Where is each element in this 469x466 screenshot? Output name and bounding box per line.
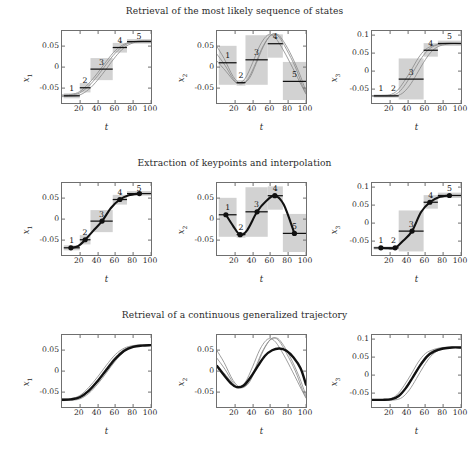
x-tick-label: 80 [437, 104, 447, 113]
state-label-5: 5 [447, 184, 452, 193]
x-axis-label: t [371, 426, 462, 436]
y-tick-mark [458, 187, 461, 188]
y-tick-mark [372, 35, 375, 36]
keypoint-marker [393, 245, 398, 250]
x-axis-label: t [216, 426, 307, 436]
x-tick-mark [270, 31, 271, 34]
y-tick-mark [148, 371, 151, 372]
x-tick-mark [97, 335, 98, 338]
plot-area: 12345 [216, 30, 307, 104]
row-most-likely-sequence: Retrieval of the most likely sequence of… [0, 0, 469, 152]
keypoint-marker [378, 245, 383, 250]
x-tick-mark [234, 252, 235, 255]
x-tick-label: 20 [384, 104, 394, 113]
demo-curve [62, 345, 151, 399]
y-tick-mark [217, 197, 220, 198]
x-tick-label: 20 [74, 256, 84, 265]
x-tick-mark [461, 252, 462, 255]
x-tick-mark [151, 183, 152, 186]
keypoint-marker [427, 200, 432, 205]
panel-row2-x3: x3 12345 t 0.10.050-0.0520406080100 [334, 178, 464, 282]
y-tick-label: 0.05 [197, 192, 214, 201]
x-tick-label: 60 [110, 408, 120, 417]
x-tick-label: 60 [265, 104, 275, 113]
y-tick-label: 0 [209, 366, 214, 375]
y-tick-mark [62, 45, 65, 46]
x-tick-mark [133, 404, 134, 407]
x-axis-label: t [371, 122, 462, 132]
x-tick-mark [407, 183, 408, 186]
x-tick-mark [97, 100, 98, 103]
x-tick-label: 100 [453, 104, 468, 113]
y-tick-mark [217, 371, 220, 372]
plot-svg [62, 183, 151, 255]
y-tick-label: 0 [54, 366, 59, 375]
y-tick-mark [303, 349, 306, 350]
y-axis-label: x1 [21, 226, 33, 235]
x-tick-mark [443, 31, 444, 34]
x-tick-mark [115, 100, 116, 103]
x-tick-mark [79, 335, 80, 338]
x-tick-mark [443, 100, 444, 103]
x-tick-mark [252, 100, 253, 103]
x-tick-mark [407, 31, 408, 34]
x-tick-mark [97, 252, 98, 255]
state-label-3: 3 [409, 67, 414, 76]
x-tick-label: 100 [298, 408, 313, 417]
x-tick-mark [288, 31, 289, 34]
x-axis-label: t [216, 274, 307, 284]
state-label-3: 3 [254, 200, 259, 209]
plot-area: 12345 [216, 182, 307, 256]
x-tick-label: 80 [437, 256, 447, 265]
state-label-3: 3 [254, 48, 259, 57]
x-axis-label: t [61, 122, 152, 132]
panel-row1-x1: x1 12345 t 0.050-0.0520406080100 [26, 26, 154, 130]
y-tick-mark [458, 392, 461, 393]
x-tick-label: 80 [282, 408, 292, 417]
state-label-4: 4 [273, 184, 278, 193]
y-axis-label: x2 [176, 226, 188, 235]
x-tick-mark [407, 404, 408, 407]
x-tick-label: 40 [402, 104, 412, 113]
y-tick-label: 0.05 [42, 40, 59, 49]
x-tick-label: 20 [384, 408, 394, 417]
keypoint-marker [83, 237, 88, 242]
x-tick-mark [425, 100, 426, 103]
x-tick-mark [270, 252, 271, 255]
y-tick-mark [458, 240, 461, 241]
y-tick-mark [217, 45, 220, 46]
x-axis-label: t [61, 426, 152, 436]
x-tick-mark [461, 183, 462, 186]
plot-svg [217, 183, 306, 255]
y-tick-mark [148, 45, 151, 46]
panel-row3-x2: x2 t 0.050-0.0520406080100 [181, 330, 309, 434]
y-tick-mark [148, 240, 151, 241]
state-label-4: 4 [273, 32, 278, 41]
x-tick-mark [79, 404, 80, 407]
y-tick-mark [62, 392, 65, 393]
x-tick-mark [270, 183, 271, 186]
state-label-1: 1 [225, 51, 230, 60]
x-tick-mark [306, 252, 307, 255]
y-tick-mark [148, 67, 151, 68]
x-tick-mark [234, 335, 235, 338]
plot-area [371, 334, 462, 408]
y-tick-mark [458, 70, 461, 71]
panel-row2-x2: x2 12345 t 0.050-0.0520406080100 [181, 178, 309, 282]
y-tick-mark [458, 205, 461, 206]
y-axis-label: x2 [176, 74, 188, 83]
x-axis-label: t [216, 122, 307, 132]
x-tick-mark [306, 31, 307, 34]
figure-canvas: Retrieval of the most likely sequence of… [0, 0, 469, 466]
y-tick-label: 0.05 [352, 352, 369, 361]
x-tick-label: 40 [402, 408, 412, 417]
x-tick-mark [443, 252, 444, 255]
y-tick-mark [62, 67, 65, 68]
y-tick-mark [303, 88, 306, 89]
y-tick-mark [148, 88, 151, 89]
y-tick-label: 0 [209, 214, 214, 223]
plot-svg [372, 31, 461, 103]
x-tick-mark [234, 31, 235, 34]
x-tick-mark [461, 335, 462, 338]
y-tick-mark [372, 374, 375, 375]
